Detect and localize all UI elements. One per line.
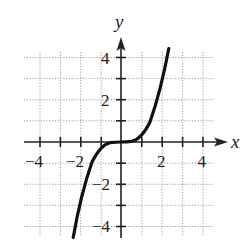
x-tick-label--4: −4 [25, 152, 44, 171]
y-tick-label--4: −4 [92, 217, 111, 236]
x-axis-label: x [230, 131, 240, 152]
y-axis-label: y [113, 11, 124, 32]
y-tick-label-2: 2 [101, 91, 110, 110]
y-tick-label-4: 4 [101, 49, 110, 68]
x-tick-label-2: 2 [157, 152, 166, 171]
y-tick-label--2: −2 [92, 175, 110, 194]
x-tick-label--2: −2 [66, 152, 84, 171]
cubic-function-graph: −4 −2 2 4 4 2 −2 −4 x y [0, 0, 247, 249]
x-tick-label-4: 4 [198, 152, 207, 171]
grid [24, 52, 214, 236]
